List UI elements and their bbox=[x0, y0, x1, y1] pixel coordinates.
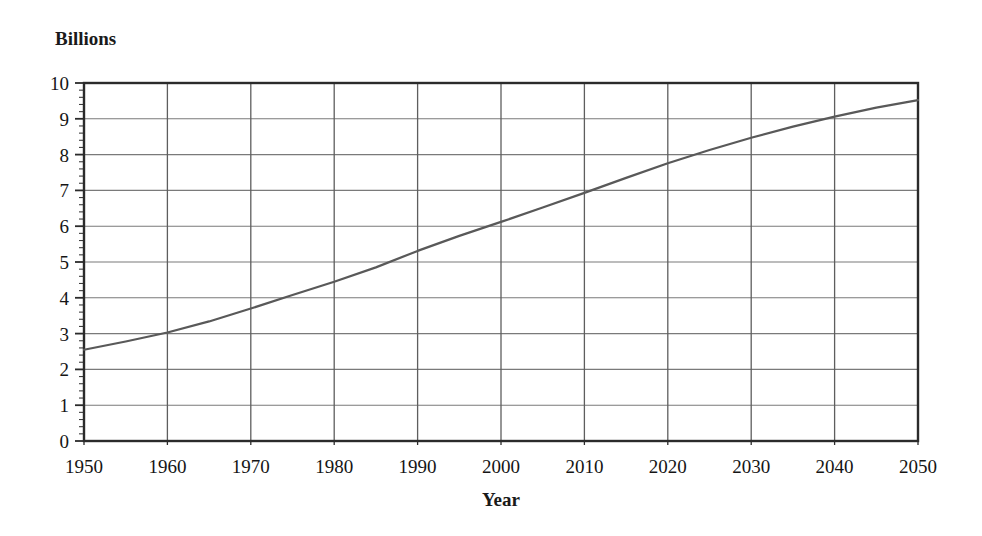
x-axis-tick-labels: 1950196019701980199020002010202020302040… bbox=[65, 456, 937, 477]
x-tick-label-1960: 1960 bbox=[148, 456, 186, 477]
y-tick-label-6: 6 bbox=[60, 216, 70, 237]
x-axis-title: Year bbox=[482, 489, 521, 510]
y-tick-label-4: 4 bbox=[60, 288, 70, 309]
y-tick-label-3: 3 bbox=[60, 324, 70, 345]
y-tick-label-0: 0 bbox=[60, 431, 70, 452]
x-tick-label-2030: 2030 bbox=[732, 456, 770, 477]
y-tick-label-2: 2 bbox=[60, 359, 70, 380]
y-axis-title: Billions bbox=[55, 28, 116, 49]
x-tick-label-2050: 2050 bbox=[899, 456, 937, 477]
y-tick-label-8: 8 bbox=[60, 145, 70, 166]
y-tick-label-7: 7 bbox=[60, 180, 70, 201]
x-tick-label-2020: 2020 bbox=[649, 456, 687, 477]
y-tick-label-10: 10 bbox=[50, 73, 69, 94]
x-tick-label-1970: 1970 bbox=[232, 456, 270, 477]
chart-figure: 012345678910 195019601970198019902000201… bbox=[0, 0, 982, 536]
y-axis-major-ticks bbox=[75, 83, 84, 441]
x-tick-label-1950: 1950 bbox=[65, 456, 103, 477]
y-tick-label-1: 1 bbox=[60, 395, 70, 416]
y-tick-label-9: 9 bbox=[60, 109, 70, 130]
y-tick-label-5: 5 bbox=[60, 252, 70, 273]
x-tick-label-1990: 1990 bbox=[399, 456, 437, 477]
x-tick-label-2040: 2040 bbox=[816, 456, 854, 477]
population-line-chart: 012345678910 195019601970198019902000201… bbox=[0, 0, 982, 536]
x-tick-label-2010: 2010 bbox=[565, 456, 603, 477]
x-tick-label-2000: 2000 bbox=[482, 456, 520, 477]
y-axis-tick-labels: 012345678910 bbox=[50, 73, 70, 452]
x-tick-label-1980: 1980 bbox=[315, 456, 353, 477]
